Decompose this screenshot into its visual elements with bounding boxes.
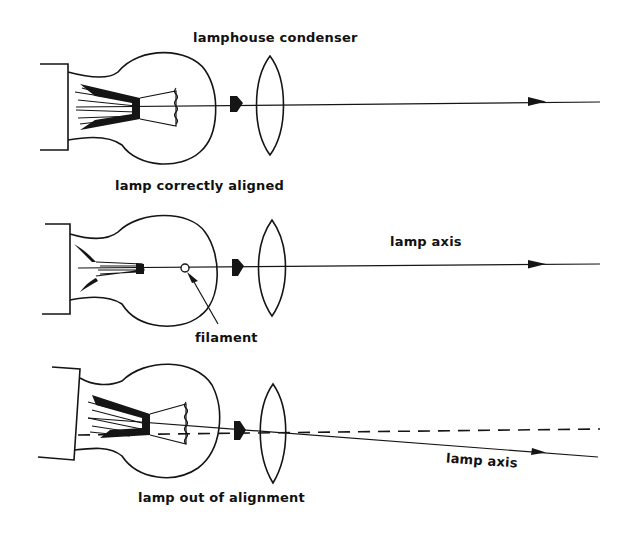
bulb-outline [68, 53, 216, 164]
filament-label: filament [195, 330, 258, 345]
lamp-base [40, 64, 68, 150]
caption-misaligned: lamp out of alignment [138, 490, 305, 505]
filament-pointer-head [187, 272, 198, 283]
optical-axis [78, 264, 600, 268]
diaphragm-marker [230, 96, 243, 112]
axis-arrowhead [528, 97, 546, 106]
panel-aligned [40, 53, 600, 164]
filament-stem [140, 91, 176, 126]
diaphragm-marker [234, 421, 246, 440]
caption-aligned: lamp correctly aligned [115, 178, 284, 193]
condenser-lens [259, 220, 286, 316]
diaphragm-marker [232, 259, 244, 276]
reflector-shading [88, 395, 150, 438]
optical-axis [76, 102, 600, 107]
optical-axis-dashed [78, 429, 600, 435]
filament-pointer [190, 275, 218, 324]
lamp-axis-tilted [88, 418, 598, 457]
axis-arrowhead [528, 260, 546, 269]
filament-point [181, 264, 189, 272]
panel-side-view [42, 216, 600, 327]
diagram-canvas [0, 0, 630, 544]
axis-arrowhead [531, 448, 546, 455]
lamp-base [38, 367, 80, 460]
condenser-label: lamphouse condenser [193, 30, 358, 45]
lamp-base [42, 224, 70, 314]
lamp-axis-label: lamp axis [390, 234, 462, 249]
